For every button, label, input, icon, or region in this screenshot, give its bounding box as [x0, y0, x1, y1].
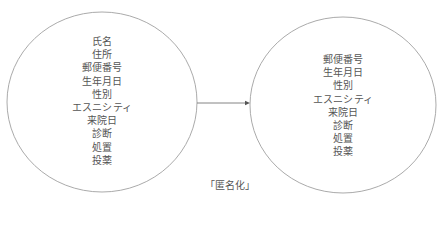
field-label: エスニシティ — [72, 101, 132, 114]
anonymization-caption: 「匿名化」 — [200, 177, 260, 192]
field-label: 診断 — [333, 119, 353, 132]
field-label: 投薬 — [333, 145, 353, 158]
target-field-list: 郵便番号 生年月日 性別 エスニシティ 来院日 診断 処置 投薬 — [293, 53, 393, 159]
field-label: 来院日 — [87, 114, 118, 127]
field-label: 来院日 — [328, 106, 359, 119]
field-label: 生年月日 — [82, 75, 123, 88]
source-field-list: 氏名 住所 郵便番号 生年月日 性別 エスニシティ 来院日 診断 処置 投薬 — [52, 35, 152, 167]
field-label: 郵便番号 — [82, 61, 123, 74]
field-label: 処置 — [333, 132, 353, 145]
field-label: 生年月日 — [323, 66, 364, 79]
field-label: 郵便番号 — [323, 53, 364, 66]
field-label: 氏名 — [92, 35, 112, 48]
field-label: 診断 — [92, 127, 112, 140]
field-label: 処置 — [92, 141, 112, 154]
field-label: エスニシティ — [313, 93, 373, 106]
field-label: 性別 — [92, 88, 112, 101]
field-label: 住所 — [92, 48, 112, 61]
field-label: 性別 — [333, 79, 353, 92]
field-label: 投薬 — [92, 154, 112, 167]
arrow-right-icon — [197, 101, 250, 105]
